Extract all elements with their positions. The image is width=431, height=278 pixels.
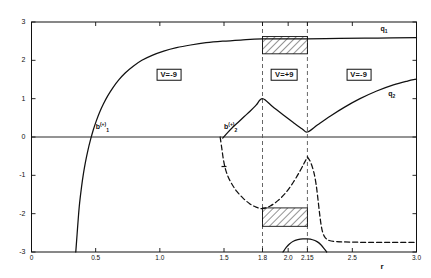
chart-canvas: [0, 0, 431, 278]
curve-label-sub: 1: [106, 127, 109, 133]
region-label-box: V=-9: [156, 69, 181, 82]
x-axis-title: r: [381, 262, 384, 271]
curve-branch-right-dashed: [307, 157, 416, 243]
curve-label-sub: 1: [385, 29, 388, 35]
chart-figure: 00.51.01.51.82.02.152.53.0 3210-1-2-3 V=…: [0, 0, 431, 278]
x-tick-label: 1.8: [258, 255, 267, 262]
y-tick-label: -2: [0, 210, 26, 217]
x-tick-label: 1.0: [155, 255, 164, 262]
y-tick-label: -3: [0, 248, 26, 255]
y-tick-label: 3: [0, 18, 26, 25]
y-tick-label: 2: [0, 56, 26, 63]
x-tick-label: 3.0: [412, 255, 421, 262]
curve-lower-arc: [283, 239, 327, 252]
curve-label: b(+)1: [96, 122, 109, 133]
curve-label-sub: 2: [235, 127, 238, 133]
x-tick-label: 2.0: [284, 255, 293, 262]
x-tick-label: 0.5: [91, 255, 100, 262]
region-label-box: V=+9: [271, 69, 298, 82]
y-tick-label: 0: [0, 133, 26, 140]
y-tick-label: -1: [0, 171, 26, 178]
x-tick-label: 0: [30, 255, 34, 262]
curve-label: b(+)2: [224, 122, 237, 133]
curve-q2: [223, 79, 417, 138]
hatched-regions: [263, 37, 308, 227]
curve-label: q2: [388, 90, 395, 99]
curve-label-sub: 2: [393, 94, 396, 100]
x-tick-label: 2.15: [301, 255, 314, 262]
curve-branch-left-dashed: [220, 137, 307, 209]
x-tick-label: 1.5: [219, 255, 228, 262]
x-tick-label: 2.5: [348, 255, 357, 262]
curve-label: q1: [381, 25, 388, 34]
region-label-box: V=-9: [346, 69, 371, 82]
y-tick-label: 1: [0, 95, 26, 102]
